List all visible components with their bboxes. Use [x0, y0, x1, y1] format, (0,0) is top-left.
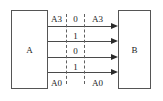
- arrow-head-icon: [111, 54, 118, 60]
- bus-label-right-top: A3: [92, 14, 103, 24]
- arrow-head-icon: [111, 38, 118, 44]
- channel-bit-2: 1: [66, 31, 85, 41]
- signal-wire-4: [48, 72, 111, 73]
- bus-label-left-bottom: A0: [51, 78, 62, 88]
- block-a-label: A: [26, 45, 33, 55]
- arrow-head-icon: [111, 69, 118, 75]
- channel-bit-4: 1: [66, 62, 85, 72]
- block-a: A: [11, 10, 48, 89]
- signal-wire-1: [48, 26, 111, 27]
- signal-wire-2: [48, 41, 111, 42]
- channel-bit-1: 0: [66, 14, 85, 24]
- signal-wire-3: [48, 57, 111, 58]
- block-b-label: B: [131, 45, 137, 55]
- bus-label-right-bottom: A0: [92, 78, 103, 88]
- channel-bit-3: 0: [66, 46, 85, 56]
- bus-label-left-top: A3: [51, 14, 62, 24]
- arrow-head-icon: [111, 23, 118, 29]
- block-b: B: [118, 10, 151, 89]
- bus-transfer-diagram: A B A3 A0 A3 A0 0 1 0 1: [0, 0, 163, 101]
